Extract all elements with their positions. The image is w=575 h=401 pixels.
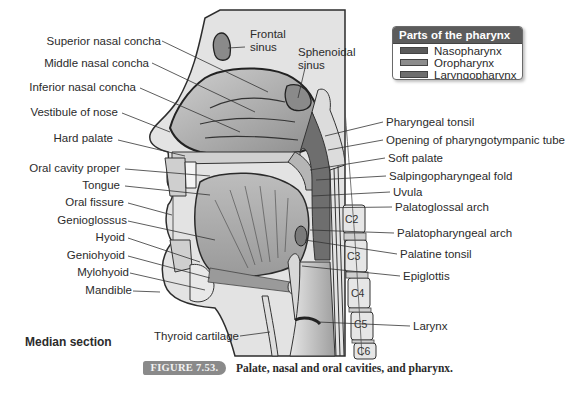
- oropharynx-swatch: [400, 59, 428, 66]
- vertebra-c6: C6: [357, 345, 370, 357]
- legend-title: Parts of the pharynx: [393, 27, 522, 44]
- view-label: Median section: [25, 335, 112, 349]
- anatomy-figure: Superior nasal concha Middle nasal conch…: [0, 0, 575, 401]
- legend-item-nasopharynx: Nasopharynx: [400, 45, 522, 56]
- nasopharynx-swatch: [400, 47, 428, 54]
- vertebra-c4: C4: [351, 287, 364, 299]
- label-middle-nasal-concha: Middle nasal concha: [44, 57, 149, 70]
- label-palatopharyngeal-arch: Palatopharyngeal arch: [397, 227, 512, 240]
- label-pharyngeal-tonsil: Pharyngeal tonsil: [386, 116, 474, 129]
- label-superior-nasal-concha: Superior nasal concha: [47, 35, 161, 48]
- legend-item-oropharynx: Oropharynx: [400, 57, 522, 68]
- legend-item-laryngopharynx: Laryngopharynx: [400, 69, 522, 80]
- label-genioglossus: Genioglossus: [57, 214, 127, 227]
- label-epiglottis: Epiglottis: [403, 270, 450, 283]
- label-salpingopharyngeal-fold: Salpingopharyngeal fold: [389, 170, 512, 183]
- label-mandible: Mandible: [85, 284, 132, 297]
- label-palatoglossal-arch: Palatoglossal arch: [395, 201, 489, 214]
- label-geniohyoid: Geniohyoid: [67, 249, 125, 262]
- figure-caption: Palate, nasal and oral cavities, and pha…: [236, 361, 453, 375]
- label-tongue: Tongue: [82, 179, 120, 192]
- pharynx-legend: Parts of the pharynx Nasopharynx Orophar…: [392, 26, 523, 80]
- label-hyoid: Hyoid: [96, 231, 125, 244]
- label-mylohyoid: Mylohyoid: [77, 266, 129, 279]
- label-frontal-sinus: Frontal sinus: [250, 28, 286, 54]
- label-inferior-nasal-concha: Inferior nasal concha: [29, 81, 136, 94]
- label-hard-palate: Hard palate: [54, 132, 113, 145]
- label-larynx: Larynx: [413, 320, 448, 333]
- vertebra-c5: C5: [354, 318, 367, 330]
- figure-number-badge: FIGURE 7.53.: [143, 361, 226, 375]
- label-opening-of-pharyngotympanic-tube: Opening of pharyngotympanic tube: [386, 134, 565, 147]
- label-sphenoidal-sinus: Sphenoidal sinus: [298, 46, 356, 72]
- vertebra-c2: C2: [345, 213, 358, 225]
- label-palatine-tonsil: Palatine tonsil: [400, 248, 472, 261]
- label-vestibule-of-nose: Vestibule of nose: [30, 106, 118, 119]
- label-uvula: Uvula: [393, 186, 422, 199]
- label-oral-fissure: Oral fissure: [65, 196, 124, 209]
- label-soft-palate: Soft palate: [388, 152, 443, 165]
- vertebra-c3: C3: [347, 250, 360, 262]
- laryngopharynx-swatch: [400, 71, 428, 78]
- label-oral-cavity-proper: Oral cavity proper: [29, 162, 120, 175]
- label-thyroid-cartilage: Thyroid cartilage: [154, 330, 239, 343]
